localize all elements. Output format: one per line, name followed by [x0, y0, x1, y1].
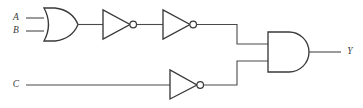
inverter-1-bubble: [130, 21, 137, 28]
inverter-3-body: [170, 70, 197, 99]
inverter-3-bubble: [197, 82, 204, 89]
input-label-a: A: [12, 12, 19, 22]
inverter-2-bubble: [190, 21, 197, 28]
or-gate-body: [44, 8, 78, 41]
and-gate-body: [268, 32, 309, 72]
wire-inv2-to-and-top: [197, 25, 269, 45]
output-label-y: Y: [347, 46, 354, 56]
inverter-1-body: [103, 10, 130, 39]
circuit-svg-canvas: A B C Y: [0, 0, 363, 108]
input-label-b: B: [13, 25, 19, 35]
input-label-c: C: [13, 79, 20, 89]
inverter-2-body: [163, 10, 190, 39]
wire-inv3-to-and-bottom: [204, 61, 269, 85]
logic-circuit-diagram: A B C Y: [0, 0, 363, 108]
